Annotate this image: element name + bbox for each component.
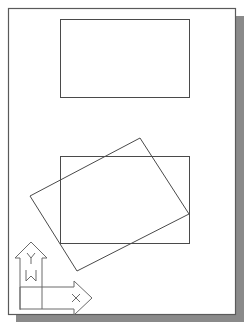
drawing-canvas[interactable] [0, 0, 247, 328]
layout-sheet-diagram [0, 0, 247, 328]
paper-sheet [9, 9, 236, 315]
